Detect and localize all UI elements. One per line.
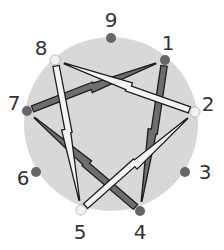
point-5-dot	[76, 205, 86, 215]
point-label-2: 2	[202, 94, 215, 114]
point-6-dot	[31, 167, 41, 177]
point-3-dot	[180, 167, 190, 177]
point-2-dot	[190, 107, 200, 117]
point-label-7: 7	[8, 93, 21, 113]
point-label-8: 8	[35, 38, 48, 58]
point-label-9: 9	[105, 10, 118, 30]
enneagram-diagram	[0, 0, 224, 250]
point-label-5: 5	[74, 222, 87, 242]
point-label-4: 4	[134, 222, 147, 242]
point-8-dot	[50, 55, 60, 65]
point-9-dot	[106, 33, 116, 43]
point-4-dot	[135, 206, 145, 216]
point-1-dot	[160, 55, 170, 65]
point-7-dot	[22, 106, 32, 116]
point-label-3: 3	[199, 162, 212, 182]
point-label-1: 1	[162, 33, 175, 53]
point-label-6: 6	[17, 168, 30, 188]
